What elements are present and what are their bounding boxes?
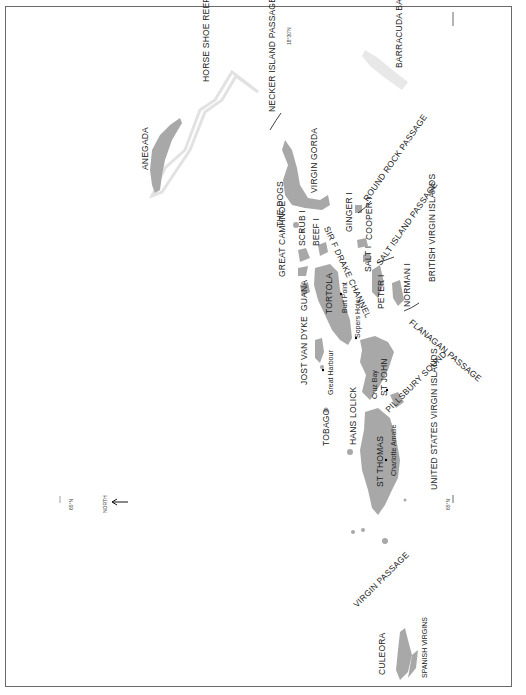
- label-virgin-gorda: VIRGIN GORDA: [310, 128, 319, 193]
- label-cruz-bay: Cruz Bay: [371, 370, 378, 399]
- label-anegada: ANEGADA: [141, 127, 150, 170]
- jost-van-dyke-shape: [315, 338, 324, 363]
- label-tobago: TOBAGO: [322, 409, 331, 446]
- label-burt-point: Burt Point: [341, 282, 348, 313]
- virgin-gorda-shape: [282, 140, 330, 210]
- label-horse-shoe-reef: HORSE SHOE REEF: [202, 0, 211, 82]
- label-norman: NORMAN I: [403, 263, 412, 307]
- label-jost-van-dyke: JOST VAN DYKE: [300, 316, 309, 385]
- label-tortola: TORTOLA: [325, 273, 334, 314]
- label-st-john: ST JOHN: [380, 358, 389, 396]
- label-cooper: COOPER I: [365, 197, 374, 240]
- label-necker-passage: NECKER ISLAND PASSAGE: [268, 0, 277, 112]
- label-guana: GUANA: [300, 280, 309, 311]
- label-lat-65-left: 65°N: [69, 499, 74, 510]
- label-barracuda-bank: BARRACUDA BANK: [395, 0, 404, 68]
- label-peter: PETER I: [377, 275, 386, 309]
- label-charlotte-amalie: Charlotte Amalie: [390, 425, 397, 476]
- label-great-camanoe: GREAT CAMANOE: [278, 201, 287, 277]
- label-lat-18-30: 18°30'N: [287, 27, 292, 45]
- label-culebra: CULEORA: [378, 633, 387, 676]
- label-beef: BEEF I: [312, 218, 321, 246]
- north-arrow-icon: [112, 499, 128, 505]
- label-st-thomas: ST THOMAS: [376, 436, 385, 487]
- label-scrub: SCRUB I: [298, 210, 307, 246]
- label-north: NORTH: [103, 495, 108, 513]
- label-salt: SALT I: [364, 246, 373, 272]
- label-ginger: GINGER I: [345, 192, 354, 232]
- label-great-harbour: Great Harbour: [327, 350, 334, 395]
- label-usvi: UNITED STATES VIRGIN ISLANDS: [430, 348, 439, 490]
- label-lat-65-right: 65°N: [446, 499, 451, 510]
- label-hans-lolick: HANS LOLICK: [349, 387, 358, 445]
- label-spanish-virgins: SPANISH VIRGINS: [421, 617, 428, 678]
- necker-passage-arrow: [270, 113, 281, 130]
